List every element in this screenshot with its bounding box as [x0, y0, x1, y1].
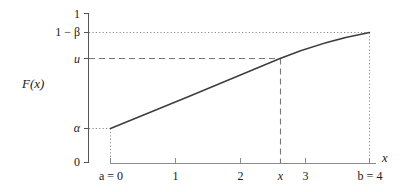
x-label-three: 3 [293, 170, 318, 182]
x-label-one: 1 [163, 170, 188, 182]
cdf-curve [111, 33, 370, 129]
x-label-two: 2 [228, 170, 253, 182]
y-label-alpha: α [60, 122, 80, 134]
y-label-zero: 0 [62, 156, 80, 168]
x-label-a-zero: a = 0 [80, 170, 142, 182]
x-label-x: x [268, 170, 293, 182]
cdf-figure: F(x) 1 1 − β u α 0 a = 0 1 2 x 3 b = 4 x [0, 0, 403, 192]
y-label-one-minus-beta: 1 − β [40, 26, 80, 38]
y-label-one: 1 [62, 8, 80, 20]
x-axis-title: x [382, 152, 388, 165]
y-label-u: u [62, 53, 80, 65]
y-axis-title: F(x) [22, 77, 44, 90]
x-label-b-four: b = 4 [339, 170, 401, 182]
